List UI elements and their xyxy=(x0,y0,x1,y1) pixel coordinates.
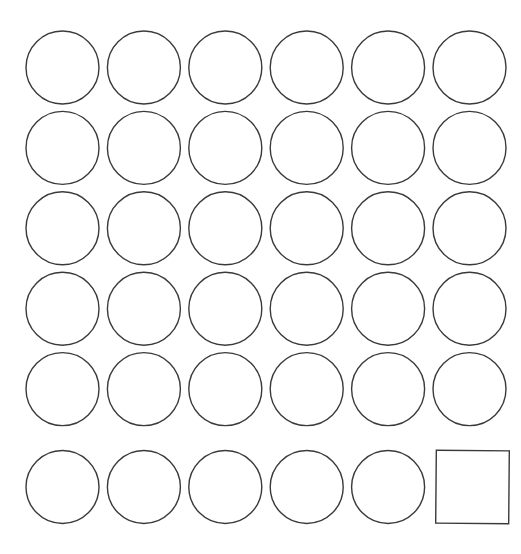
circle-shape[interactable] xyxy=(352,451,425,524)
circle-shape[interactable] xyxy=(189,451,262,524)
circle-shape[interactable] xyxy=(189,31,262,104)
circle-shape[interactable] xyxy=(189,111,262,184)
circle-shape[interactable] xyxy=(189,353,262,426)
circle-shape[interactable] xyxy=(270,111,343,184)
circle-shape[interactable] xyxy=(433,111,506,184)
circle-shape[interactable] xyxy=(189,192,262,265)
circle-shape[interactable] xyxy=(26,451,99,524)
circle-shape[interactable] xyxy=(270,353,343,426)
circle-shape[interactable] xyxy=(107,192,180,265)
circle-shape[interactable] xyxy=(26,272,99,345)
circle-shape[interactable] xyxy=(270,31,343,104)
circle-shape[interactable] xyxy=(189,272,262,345)
circle-shape[interactable] xyxy=(352,192,425,265)
square-shape[interactable] xyxy=(436,450,510,524)
circle-shape[interactable] xyxy=(352,31,425,104)
circle-shape[interactable] xyxy=(433,31,506,104)
circle-shape[interactable] xyxy=(270,192,343,265)
circle-shape[interactable] xyxy=(107,451,180,524)
circle-shape[interactable] xyxy=(26,31,99,104)
circle-shape[interactable] xyxy=(107,111,180,184)
shape-grid-canvas xyxy=(0,0,521,554)
circle-shape[interactable] xyxy=(433,272,506,345)
circle-shape[interactable] xyxy=(433,353,506,426)
circle-shape[interactable] xyxy=(352,353,425,426)
circle-shape[interactable] xyxy=(26,111,99,184)
circle-shape[interactable] xyxy=(107,272,180,345)
circle-shape[interactable] xyxy=(107,353,180,426)
circle-shape[interactable] xyxy=(433,192,506,265)
shape-grid xyxy=(0,0,521,554)
circle-shape[interactable] xyxy=(352,272,425,345)
circle-shape[interactable] xyxy=(352,111,425,184)
circle-shape[interactable] xyxy=(107,31,180,104)
circle-shape[interactable] xyxy=(270,272,343,345)
circle-shape[interactable] xyxy=(26,353,99,426)
circle-shape[interactable] xyxy=(270,451,343,524)
circle-shape[interactable] xyxy=(26,192,99,265)
